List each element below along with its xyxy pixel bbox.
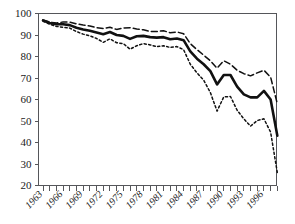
y-tick-label: 80 [21, 50, 33, 62]
y-tick-label: 40 [21, 136, 33, 148]
series-point-estimate [43, 20, 277, 135]
y-tick-label: 30 [21, 158, 33, 170]
x-tick-label: 1993 [224, 188, 246, 210]
x-tick-label-group: 1963196619691972197519781981198419871990… [23, 188, 266, 211]
x-tick-label: 1966 [43, 188, 65, 210]
y-tick-label: 50 [21, 115, 33, 127]
x-tick-label: 1984 [163, 188, 185, 210]
y-tick-label: 70 [21, 72, 33, 84]
x-tick-group [43, 186, 277, 191]
series-lower-confidence-bound [43, 21, 277, 172]
y-tick-label: 90 [21, 29, 33, 41]
x-tick-label: 1975 [103, 188, 125, 210]
x-tick-label: 1987 [183, 188, 205, 211]
x-tick-label: 1978 [123, 188, 145, 210]
y-tick-group: 2030405060708090100 [15, 7, 39, 191]
line-chart: 2030405060708090100 19631966196919721975… [0, 0, 295, 224]
y-tick-label: 60 [21, 93, 33, 105]
chart-canvas: 2030405060708090100 19631966196919721975… [0, 0, 295, 224]
series-group [43, 20, 277, 173]
x-tick-label: 1996 [244, 188, 266, 210]
x-tick-label: 1990 [204, 188, 226, 210]
x-tick-label: 1981 [143, 188, 165, 210]
y-tick-label: 100 [15, 7, 32, 19]
x-tick-label: 1969 [63, 188, 85, 210]
plot-frame [39, 13, 278, 186]
x-tick-label: 1972 [83, 188, 105, 210]
y-tick-label: 20 [21, 179, 33, 191]
x-tick-label: 1963 [23, 188, 45, 210]
